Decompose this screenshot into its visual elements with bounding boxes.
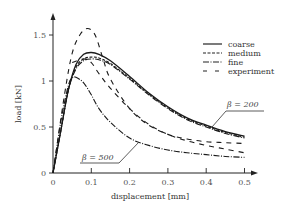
legend-label-fine: fine — [228, 58, 243, 67]
legend-label-experiment: experiment — [228, 67, 275, 76]
load-displacement-chart: 00.10.20.30.40.5 00.511.5 displacement [… — [0, 0, 288, 214]
x-axis-label: displacement [mm] — [111, 192, 189, 201]
legend-label-coarse: coarse — [228, 40, 255, 49]
y-axis-label: load [kN] — [14, 85, 23, 123]
x-tick-label: 0.4 — [200, 178, 213, 187]
y-ticks: 00.511.5 — [33, 31, 53, 178]
x-tick-label: 0.1 — [85, 178, 98, 187]
x-ticks: 00.10.20.30.40.5 — [50, 168, 250, 187]
annotation-beta-500: β = 500 — [80, 142, 139, 163]
y-tick-label: 1.5 — [33, 31, 46, 40]
curve-experiment-1 — [53, 29, 245, 173]
x-tick-label: 0.5 — [238, 178, 251, 187]
y-tick-label: 0.5 — [33, 123, 46, 132]
x-tick-label: 0.3 — [162, 178, 175, 187]
annotation-beta-200: β = 200 — [212, 100, 264, 127]
y-axis-arrow-icon — [51, 13, 56, 20]
curve-experiment-2 — [72, 59, 244, 153]
x-tick-label: 0 — [50, 178, 55, 187]
x-tick-label: 0.2 — [123, 178, 136, 187]
legend: coarse medium fine experiment — [203, 40, 275, 76]
beta-500-label: β = 500 — [81, 153, 114, 162]
axes — [51, 13, 259, 176]
legend-label-medium: medium — [228, 49, 261, 58]
beta-200-leader — [212, 111, 264, 127]
y-tick-label: 1 — [41, 77, 46, 86]
y-tick-label: 0 — [41, 169, 46, 178]
beta-200-label: β = 200 — [226, 100, 259, 109]
x-axis-arrow-icon — [251, 171, 258, 176]
data-curves — [53, 29, 245, 173]
